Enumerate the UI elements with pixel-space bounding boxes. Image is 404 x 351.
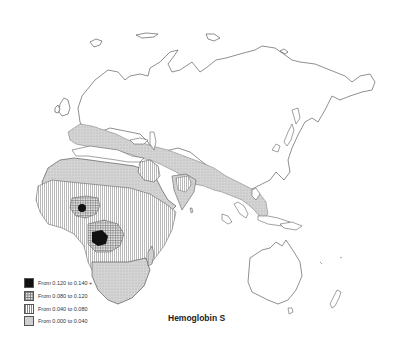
legend-label: From 0.080 to 0.120 xyxy=(38,293,88,299)
british-isles xyxy=(59,98,70,116)
legend-swatch-crosshatch xyxy=(24,291,34,301)
tasmania xyxy=(288,308,293,314)
legend-row-low: From 0.000 to 0.040 xyxy=(24,315,92,328)
australia xyxy=(248,240,302,304)
map-legend: From 0.120 to 0.140 + From 0.080 to 0.12… xyxy=(24,277,92,328)
legend-swatch-solid-black xyxy=(24,278,34,288)
legend-label: From 0.040 to 0.080 xyxy=(38,306,88,312)
legend-row-high: From 0.120 to 0.140 + xyxy=(24,277,92,290)
pacific-islands xyxy=(320,257,342,264)
legend-swatch-vertical-lines xyxy=(24,304,34,314)
africa-south xyxy=(92,258,150,304)
new-zealand xyxy=(330,290,341,308)
hotspot-nigeria xyxy=(78,204,86,212)
sri-lanka xyxy=(190,208,193,213)
legend-row-mid: From 0.040 to 0.080 xyxy=(24,302,92,315)
legend-swatch-stipple xyxy=(24,316,34,326)
legend-row-mid-high: From 0.080 to 0.120 xyxy=(24,290,92,303)
legend-label: From 0.120 to 0.140 + xyxy=(38,280,92,286)
legend-label: From 0.000 to 0.040 xyxy=(38,318,88,324)
map-title: Hemoglobin S xyxy=(168,313,225,323)
